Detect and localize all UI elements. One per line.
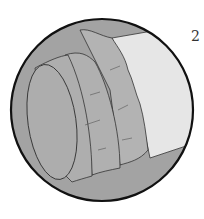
step-number: 2 <box>191 28 200 44</box>
duct-connector-illustration <box>0 0 204 219</box>
